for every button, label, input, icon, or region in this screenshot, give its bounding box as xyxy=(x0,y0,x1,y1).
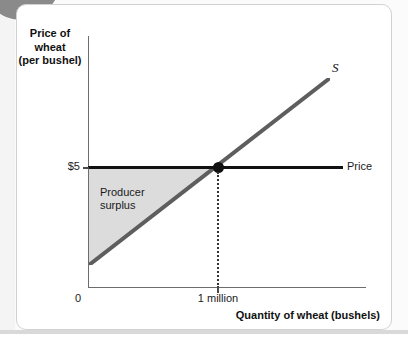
producer-surplus-label: Producer surplus xyxy=(100,186,170,212)
chart-plot-area: Price of wheat (per bushel) Quantity of … xyxy=(0,0,408,339)
x-axis-tick-label-1-million: 1 million xyxy=(183,292,253,304)
x-axis-title: Quantity of wheat (bushels) xyxy=(180,309,380,321)
y-axis-title-line-2: wheat xyxy=(14,41,86,55)
price-line-label: Price xyxy=(347,160,372,172)
y-axis-title: Price of wheat (per bushel) xyxy=(14,27,86,68)
y-axis-title-line-3: (per bushel) xyxy=(14,54,86,68)
quantity-dropline xyxy=(217,172,219,288)
producer-surplus-label-line-2: surplus xyxy=(100,199,170,212)
producer-surplus-area xyxy=(89,167,219,266)
producer-surplus-label-line-1: Producer xyxy=(100,186,170,199)
supply-curve-label: S xyxy=(332,60,339,76)
y-axis-title-line-1: Price of xyxy=(14,27,86,41)
y-axis-tick-label-5: $5 xyxy=(48,160,80,172)
y-axis-tick-5 xyxy=(83,167,89,169)
y-axis-line xyxy=(88,36,89,288)
origin-label: 0 xyxy=(68,292,88,304)
figure-root: Price of wheat (per bushel) Quantity of … xyxy=(0,0,408,339)
x-axis-line xyxy=(88,287,366,288)
